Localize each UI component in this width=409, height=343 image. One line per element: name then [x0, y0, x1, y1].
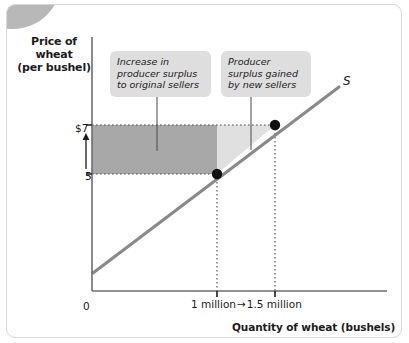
y-axis-label-line-1: Price of [13, 35, 95, 48]
y-axis-label-line-3: (per bushel) [13, 61, 95, 74]
y-tick-label-7: $7 [75, 122, 88, 134]
quantity-increase-arrow-icon: → [236, 298, 247, 310]
region-gained-new-sellers [217, 125, 275, 174]
callout-gained-new-sellers: Producer surplus gained by new sellers [221, 51, 311, 97]
x-tick-label-from: 1 million [191, 298, 236, 310]
region-increase-original-sellers [92, 125, 217, 174]
supply-curve-label: S [343, 74, 351, 88]
x-tick-labels: 1 million→1.5 million [191, 298, 302, 310]
point-new-equilibrium [270, 120, 280, 130]
point-original-equilibrium [212, 169, 222, 179]
price-increase-arrow-head [83, 133, 90, 140]
origin-label: 0 [83, 300, 90, 312]
supply-curve-line [93, 87, 339, 273]
y-tick-label-5: 5 [85, 170, 92, 182]
callout-increase-original-sellers: Increase in producer surplus to original… [110, 51, 211, 97]
y-axis-label-line-2: wheat [13, 48, 95, 61]
y-axis-label: Price of wheat (per bushel) [13, 35, 95, 74]
figure-card: Price of wheat (per bushel) $7 5 0 1 mil… [6, 4, 402, 338]
x-tick-label-to: 1.5 million [247, 298, 302, 310]
x-axis-label: Quantity of wheat (bushels) [232, 321, 395, 333]
